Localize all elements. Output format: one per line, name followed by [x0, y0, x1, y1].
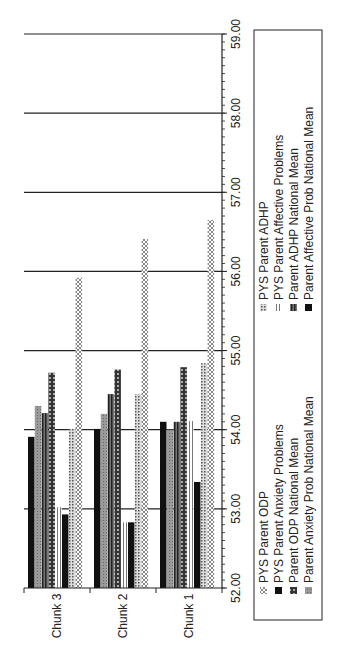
legend-label: PYS Parent ODP — [257, 491, 271, 583]
legend-label: Parent Affective Prob National Mean — [302, 107, 316, 300]
y-tick-label: 56.00 — [229, 256, 243, 286]
bar — [160, 422, 167, 588]
bar — [114, 370, 121, 588]
bar — [135, 394, 142, 588]
bar-chart: 52.0053.0054.0055.0056.0057.0058.0059.00… — [0, 0, 339, 661]
legend-label: PYS Parent ADHP — [257, 201, 271, 300]
legend-swatch — [290, 304, 297, 311]
bar — [121, 522, 128, 588]
legend-swatch — [290, 587, 297, 594]
y-tick-label: 55.00 — [229, 335, 243, 365]
category-label: Chunk 1 — [182, 593, 196, 638]
legend-swatch — [275, 587, 282, 594]
bar — [94, 429, 101, 588]
legend-label: Parent ADHP National Mean — [287, 148, 301, 300]
bar — [101, 414, 108, 588]
bar — [142, 239, 149, 588]
value-axis: 52.0053.0054.0055.0056.0057.0058.0059.00 — [222, 19, 243, 603]
bar — [128, 522, 135, 588]
bar — [187, 421, 194, 588]
y-tick-label: 59.00 — [229, 19, 243, 49]
y-tick-label: 54.00 — [229, 414, 243, 444]
bar — [76, 278, 83, 588]
bar — [167, 430, 174, 588]
bar — [35, 406, 42, 588]
bar — [42, 413, 49, 588]
legend-swatch — [275, 304, 282, 311]
legend-swatch — [260, 304, 267, 311]
legend-swatch — [260, 587, 267, 594]
bar — [28, 437, 35, 588]
legend-swatch — [305, 304, 312, 311]
legend: PYS Parent ODPPYS Parent Anxiety Problem… — [254, 30, 322, 620]
chart-figure: 52.0053.0054.0055.0056.0057.0058.0059.00… — [0, 0, 339, 661]
category-label: Chunk 3 — [50, 593, 64, 638]
bar — [108, 394, 115, 588]
legend-label: Parent ODP National Mean — [287, 438, 301, 583]
y-tick-label: 52.00 — [229, 573, 243, 603]
category-label: Chunk 2 — [116, 593, 130, 638]
legend-label: PYS Parent Anxiety Problems — [272, 424, 286, 583]
bar — [180, 367, 187, 588]
bar — [208, 220, 215, 588]
category-axis: Chunk 3Chunk 2Chunk 1 — [24, 588, 222, 638]
y-tick-label: 58.00 — [229, 98, 243, 128]
y-tick-label: 53.00 — [229, 494, 243, 524]
bar — [201, 363, 208, 588]
bar — [174, 422, 181, 588]
bar — [48, 373, 55, 588]
legend-swatch — [305, 587, 312, 594]
bar-series — [28, 220, 214, 588]
bar — [194, 482, 201, 588]
y-tick-label: 57.00 — [229, 177, 243, 207]
bar — [69, 429, 76, 588]
bar — [62, 514, 69, 588]
bar — [55, 507, 62, 588]
legend-label: PYS Parent Affective Problems — [272, 135, 286, 300]
legend-label: Parent Anxiety Prob National Mean — [302, 396, 316, 583]
